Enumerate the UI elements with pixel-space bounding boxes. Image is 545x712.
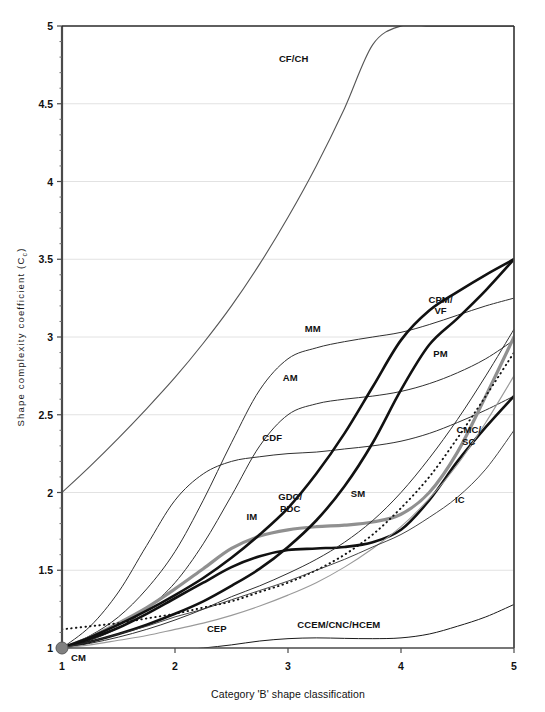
y-tick-label: 4.5 — [38, 98, 53, 110]
series-label-ic: IC — [455, 494, 465, 505]
y-tick-label: 5 — [47, 20, 53, 32]
series-label-gdc-pdc: GDC/ — [278, 491, 302, 502]
series-label-am: AM — [283, 372, 298, 383]
x-tick-label: 2 — [172, 660, 178, 672]
y-tick-label: 1 — [47, 642, 53, 654]
series-label-pm: PM — [433, 348, 447, 359]
series-label-cmc-sc: SC — [462, 436, 475, 447]
x-axis-title: Category 'B' shape classification — [211, 688, 365, 700]
x-tick-label: 3 — [285, 660, 291, 672]
y-tick-label: 1.5 — [38, 564, 53, 576]
chart-figure: 11.522.533.544.5512345 CF/CHMMAMCDFIMGDC… — [0, 0, 545, 712]
y-axis-title: Shape complexity coefficient (Cc) — [15, 247, 28, 426]
axis-titles: Category 'B' shape classificationShape c… — [15, 247, 365, 700]
series-label-cep: CEP — [207, 623, 227, 634]
series-label-mm: MM — [305, 323, 321, 334]
series-paths — [62, 25, 514, 652]
series-line-gdc-pdc — [62, 396, 514, 648]
series-line-ccem-cnc-hcem — [62, 604, 514, 651]
cm-origin-dot — [56, 642, 68, 654]
y-tick-label: 3.5 — [38, 253, 53, 265]
y-tick-label: 2 — [47, 487, 53, 499]
x-tick-label: 5 — [511, 660, 517, 672]
series-label-gdc-pdc: PDC — [280, 503, 300, 514]
series-label-cpm-vf: CPM/ — [428, 294, 452, 305]
series-label-sm: SM — [351, 488, 365, 499]
y-tick-label: 4 — [47, 176, 53, 188]
series-label-cdf: CDF — [262, 432, 282, 443]
axis-ticks — [57, 26, 514, 653]
series-line-cdf — [62, 396, 514, 648]
series-label-cm: CM — [71, 652, 86, 663]
tick-labels: 11.522.533.544.5512345 — [38, 20, 517, 672]
line-chart-svg: 11.522.533.544.5512345 CF/CHMMAMCDFIMGDC… — [0, 0, 545, 712]
y-tick-label: 3 — [47, 331, 53, 343]
series-label-cmc-sc: CMC/ — [456, 424, 481, 435]
series-label-cpm-vf: VF — [434, 305, 446, 316]
y-tick-label: 2.5 — [38, 409, 53, 421]
x-tick-label: 1 — [59, 660, 65, 672]
series-label-im: IM — [246, 511, 257, 522]
series-label-cf-ch: CF/CH — [279, 53, 309, 64]
x-tick-label: 4 — [398, 660, 404, 672]
series-line-cf-ch — [62, 25, 514, 493]
series-label-ccem-cnc-hcem: CCEM/CNC/HCEM — [297, 619, 380, 630]
